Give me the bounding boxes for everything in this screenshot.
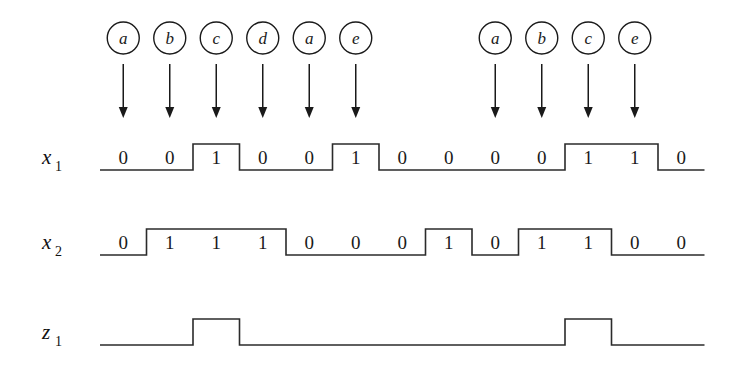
- bit-value-x1-11: 1: [630, 147, 640, 168]
- event-arrow-head-7: [537, 107, 546, 118]
- bit-value-x1-5: 1: [351, 147, 361, 168]
- event-arrow-head-5: [351, 107, 360, 118]
- signal-name-z1: z: [41, 320, 50, 344]
- event-arrow-head-2: [212, 107, 221, 118]
- event-label-c-2: c: [212, 29, 220, 48]
- signal-name-subscript-z1: 1: [55, 334, 62, 349]
- timing-diagram: 00100100001100111000101100 x1x2z1 abcdae…: [0, 0, 739, 386]
- signal-name-labels-group: x1x2z1: [41, 145, 62, 349]
- bit-value-x1-4: 0: [305, 147, 315, 168]
- bit-value-x1-12: 0: [677, 147, 687, 168]
- event-arrow-head-0: [119, 107, 128, 118]
- bit-value-x2-0: 0: [119, 232, 129, 253]
- event-arrow-head-9: [630, 107, 639, 118]
- event-label-c-8: c: [584, 29, 592, 48]
- signal-name-subscript-x1: 1: [55, 159, 62, 174]
- bit-value-x2-1: 1: [165, 232, 175, 253]
- bit-value-x2-4: 0: [305, 232, 315, 253]
- event-arrow-head-1: [165, 107, 174, 118]
- bit-value-labels-group: 00100100001100111000101100: [119, 147, 687, 253]
- bit-value-x2-12: 0: [677, 232, 687, 253]
- event-label-a-0: a: [119, 29, 128, 48]
- bit-value-x1-6: 0: [398, 147, 408, 168]
- bit-value-x2-5: 0: [351, 232, 361, 253]
- bit-value-x1-3: 0: [258, 147, 268, 168]
- signal-name-x1: x: [41, 145, 52, 169]
- bit-value-x1-7: 0: [444, 147, 454, 168]
- event-arrow-head-4: [305, 107, 314, 118]
- event-arrow-head-8: [584, 107, 593, 118]
- bit-value-x2-7: 1: [444, 232, 454, 253]
- event-arrow-head-3: [258, 107, 267, 118]
- bit-value-x1-1: 0: [165, 147, 175, 168]
- bit-value-x2-3: 1: [258, 232, 268, 253]
- bit-value-x1-9: 0: [537, 147, 547, 168]
- bit-value-x1-8: 0: [491, 147, 501, 168]
- waveform-z1: [100, 319, 705, 345]
- bit-value-x2-11: 0: [630, 232, 640, 253]
- signal-name-subscript-x2: 2: [55, 244, 62, 259]
- event-label-d-3: d: [259, 29, 268, 48]
- bit-value-x2-10: 1: [584, 232, 594, 253]
- timing-diagram-canvas: 00100100001100111000101100 x1x2z1 abcdae…: [0, 0, 739, 386]
- bit-value-x1-10: 1: [584, 147, 594, 168]
- event-arrow-head-6: [491, 107, 500, 118]
- event-label-e-5: e: [352, 29, 360, 48]
- signal-name-x2: x: [41, 230, 52, 254]
- event-markers-group: abcdaeabce: [107, 22, 651, 118]
- bit-value-x2-6: 0: [398, 232, 408, 253]
- bit-value-x2-2: 1: [212, 232, 222, 253]
- event-label-a-4: a: [305, 29, 314, 48]
- bit-value-x1-0: 0: [119, 147, 129, 168]
- event-label-b-1: b: [166, 29, 175, 48]
- bit-value-x2-8: 0: [491, 232, 501, 253]
- event-label-b-7: b: [538, 29, 547, 48]
- bit-value-x2-9: 1: [537, 232, 547, 253]
- bit-value-x1-2: 1: [212, 147, 222, 168]
- event-label-e-9: e: [631, 29, 639, 48]
- event-label-a-6: a: [491, 29, 500, 48]
